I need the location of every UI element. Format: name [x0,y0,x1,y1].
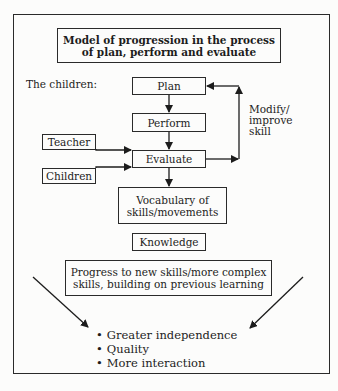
outcome-item: More interaction [96,356,237,370]
node-vocabulary: Vocabulary of skills/movements [118,187,227,224]
node-children: Children [42,168,96,184]
diagram-title: Model of progression in the process of p… [57,28,281,63]
outcome-item: Quality [96,342,237,356]
node-perform: Perform [132,113,206,132]
node-progress: Progress to new skills/more complex skil… [65,260,272,296]
outcomes-list: Greater independence Quality More intera… [96,328,237,370]
node-knowledge: Knowledge [132,233,206,251]
feedback-label: Modify/ improve skill [249,104,293,137]
node-teacher: Teacher [42,134,96,150]
node-plan: Plan [132,77,206,95]
node-evaluate: Evaluate [132,150,206,168]
subject-label: The children: [26,79,97,90]
outcome-item: Greater independence [96,328,237,342]
